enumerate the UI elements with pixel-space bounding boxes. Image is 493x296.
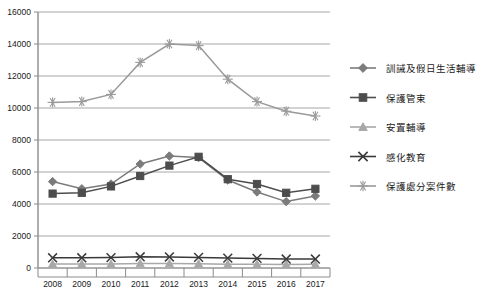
marker-square <box>312 185 319 192</box>
y-axis-tick-label: 16000 <box>7 7 31 17</box>
x-axis-tick-label: 2015 <box>248 279 267 289</box>
marker-square <box>137 172 144 179</box>
x-axis-tick-label: 2016 <box>277 279 296 289</box>
legend-item[interactable]: 保護管束 <box>350 93 426 104</box>
y-axis-tick-label: 4000 <box>12 199 31 209</box>
x-axis-labels: 2008200920102011201220132014201520162017 <box>38 268 330 289</box>
x-axis-tick-label: 2010 <box>102 279 121 289</box>
legend-item[interactable]: 保護處分案件數 <box>350 181 456 192</box>
y-axis-tick-label: 12000 <box>7 71 31 81</box>
legend-label: 訓誡及假日生活輔導 <box>386 63 476 74</box>
y-axis-tick-label: 0 <box>26 263 31 273</box>
marker-square <box>107 183 114 190</box>
x-axis-tick-label: 2011 <box>131 279 150 289</box>
marker-square <box>78 189 85 196</box>
marker-square <box>359 94 367 102</box>
x-axis-tick-label: 2013 <box>189 279 208 289</box>
line-chart: 0200040006000800010000120001400016000200… <box>0 0 493 296</box>
x-axis-tick-label: 2008 <box>43 279 62 289</box>
legend-label: 保護管束 <box>386 93 426 104</box>
marker-square <box>49 190 56 197</box>
marker-diamond <box>359 64 368 73</box>
y-axis-tick-label: 10000 <box>7 103 31 113</box>
marker-square <box>224 176 231 183</box>
x-axis-tick-label: 2009 <box>72 279 91 289</box>
legend-item[interactable]: 訓誡及假日生活輔導 <box>350 63 476 74</box>
legend-label: 安置輔導 <box>386 122 426 133</box>
marker-square <box>195 153 202 160</box>
legend-item[interactable]: 感化教育 <box>350 152 426 163</box>
legend-label: 保護處分案件數 <box>386 181 456 192</box>
x-axis-tick-label: 2017 <box>306 279 325 289</box>
y-axis-tick-label: 6000 <box>12 167 31 177</box>
x-axis-tick-label: 2014 <box>218 279 237 289</box>
y-axis-tick-label: 14000 <box>7 39 31 49</box>
x-axis-tick-label: 2012 <box>160 279 179 289</box>
marker-square <box>253 180 260 187</box>
marker-square <box>283 189 290 196</box>
y-axis-tick-label: 2000 <box>12 231 31 241</box>
y-axis-tick-label: 8000 <box>12 135 31 145</box>
legend-item[interactable]: 安置輔導 <box>350 122 426 133</box>
marker-square <box>166 162 173 169</box>
legend: 訓誡及假日生活輔導保護管束安置輔導感化教育保護處分案件數 <box>350 63 476 192</box>
legend-label: 感化教育 <box>386 152 426 163</box>
chart-container: 0200040006000800010000120001400016000200… <box>0 0 493 296</box>
